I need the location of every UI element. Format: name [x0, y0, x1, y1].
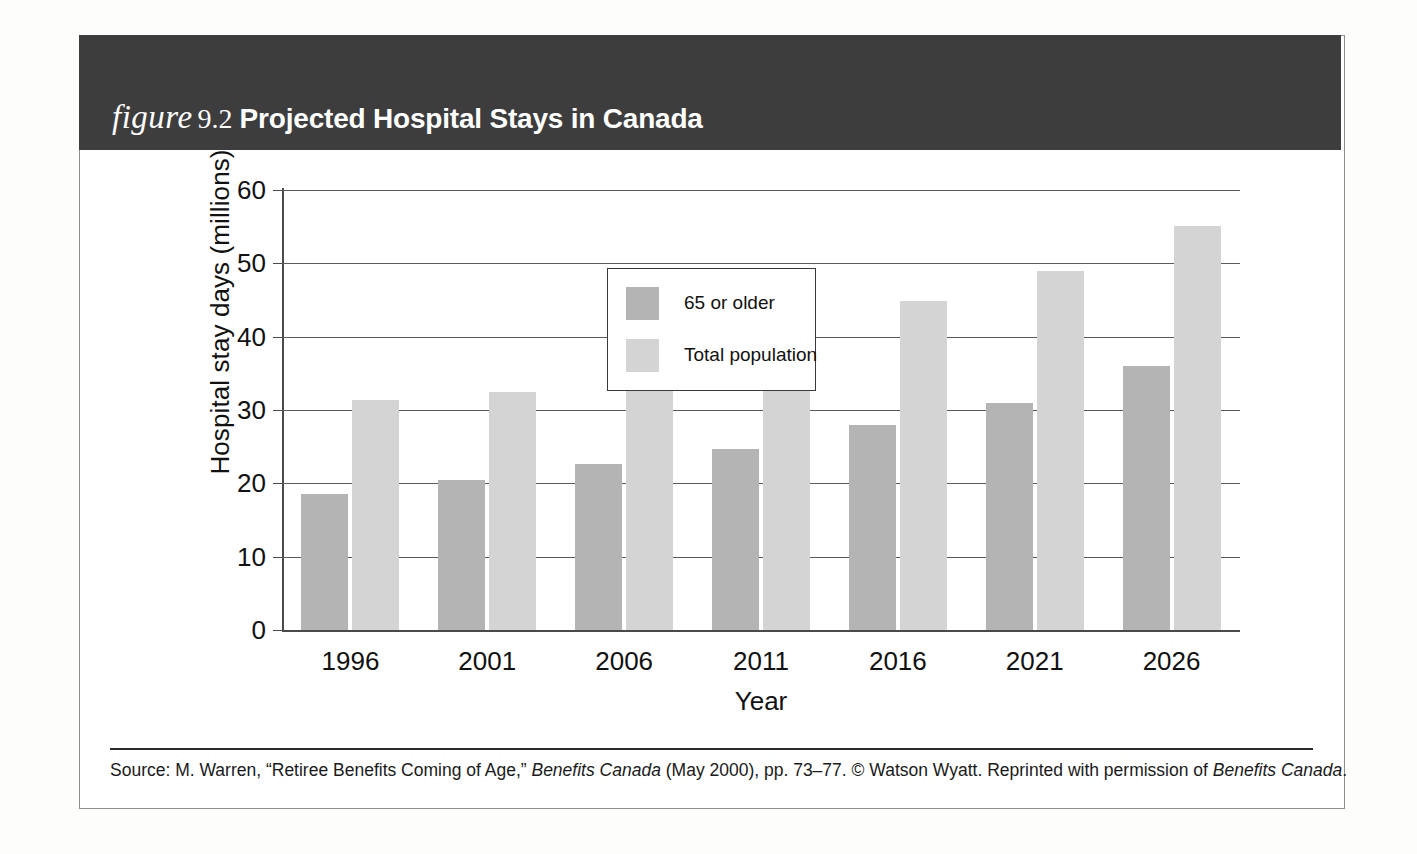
- legend-swatch-senior-icon: [626, 287, 659, 320]
- x-tick-label-1996: 1996: [322, 646, 380, 677]
- legend-label-total: Total population: [684, 344, 817, 366]
- y-tick-mark-10: [273, 557, 282, 558]
- y-tick-mark-20: [273, 483, 282, 484]
- x-tick-label-2016: 2016: [869, 646, 927, 677]
- source-divider-rule: [110, 748, 1313, 750]
- bar-2026-total: [1174, 226, 1221, 630]
- gridline-60: [282, 190, 1240, 191]
- bar-2006-senior: [575, 464, 622, 630]
- gridline-20: [282, 483, 1240, 484]
- source-journal-2: Benefits Canada: [1213, 760, 1342, 780]
- legend-label-senior: 65 or older: [684, 292, 775, 314]
- x-tick-label-2026: 2026: [1143, 646, 1201, 677]
- y-tick-mark-50: [273, 263, 282, 264]
- x-tick-label-2006: 2006: [595, 646, 653, 677]
- source-note: Source: M. Warren, “Retiree Benefits Com…: [110, 760, 1320, 781]
- chart-legend: 65 or older Total population: [607, 268, 816, 391]
- bar-2021-total: [1037, 271, 1084, 630]
- x-axis-title: Year: [282, 686, 1240, 717]
- plot-region: 65 or older Total population 01020304050…: [282, 188, 1240, 632]
- y-axis-title: Hospital stay days (millions): [205, 102, 236, 522]
- bar-2016-total: [900, 301, 947, 630]
- x-tick-label-2011: 2011: [733, 646, 789, 677]
- x-tick-label-2001: 2001: [458, 646, 516, 677]
- bar-1996-senior: [301, 494, 348, 630]
- bar-1996-total: [352, 400, 399, 630]
- x-axis-spine: [282, 630, 1240, 632]
- y-tick-label-20: 20: [237, 468, 266, 499]
- y-tick-label-30: 30: [237, 395, 266, 426]
- source-middle: (May 2000), pp. 73–77. © Watson Wyatt. R…: [661, 760, 1213, 780]
- bar-2006-total: [626, 362, 673, 630]
- chart-area: Hospital stay days (millions) 65 or olde…: [79, 150, 1345, 710]
- bar-2011-senior: [712, 449, 759, 630]
- gridline-30: [282, 410, 1240, 411]
- source-prefix: Source: M. Warren, “Retiree Benefits Com…: [110, 760, 531, 780]
- legend-item-total: Total population: [626, 337, 817, 373]
- figure-title-label: Projected Hospital Stays in Canada: [233, 103, 703, 134]
- y-tick-mark-40: [273, 337, 282, 338]
- y-tick-label-10: 10: [237, 541, 266, 572]
- bar-2001-total: [489, 392, 536, 630]
- bar-2016-senior: [849, 425, 896, 630]
- source-journal-1: Benefits Canada: [531, 760, 660, 780]
- bar-2021-senior: [986, 403, 1033, 630]
- legend-swatch-total-icon: [626, 339, 659, 372]
- bar-2026-senior: [1123, 366, 1170, 630]
- y-tick-mark-0: [273, 630, 282, 631]
- y-tick-label-40: 40: [237, 321, 266, 352]
- bar-2001-senior: [438, 480, 485, 630]
- legend-item-senior: 65 or older: [626, 285, 775, 321]
- y-tick-label-60: 60: [237, 175, 266, 206]
- source-suffix: .: [1342, 760, 1347, 780]
- x-tick-label-2021: 2021: [1006, 646, 1064, 677]
- y-tick-label-0: 0: [252, 615, 266, 646]
- y-tick-mark-30: [273, 410, 282, 411]
- figure-word-label: figure: [112, 99, 193, 135]
- gridline-10: [282, 557, 1240, 558]
- figure-header-band: figure9.2Projected Hospital Stays in Can…: [79, 35, 1341, 150]
- gridline-50: [282, 263, 1240, 264]
- y-tick-mark-60: [273, 190, 282, 191]
- figure-header-text: figure9.2Projected Hospital Stays in Can…: [112, 99, 703, 136]
- page-background: figure9.2Projected Hospital Stays in Can…: [0, 0, 1417, 854]
- y-tick-label-50: 50: [237, 248, 266, 279]
